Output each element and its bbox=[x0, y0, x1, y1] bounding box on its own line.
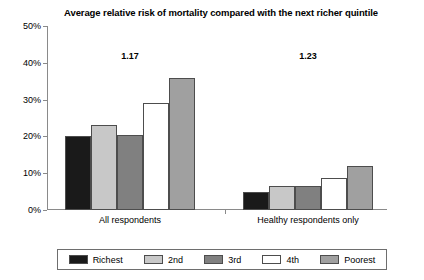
bar-poorest-1[interactable] bbox=[347, 166, 373, 210]
chart-legend: Richest2nd3rd4thPoorest bbox=[57, 249, 387, 270]
y-tick-label: 20% bbox=[23, 131, 41, 141]
legend-item-richest[interactable]: Richest bbox=[69, 255, 123, 265]
y-tick-mark bbox=[43, 173, 47, 174]
y-tick-label: 40% bbox=[23, 58, 41, 68]
legend-swatch-icon bbox=[204, 255, 223, 264]
legend-item-3rd[interactable]: 3rd bbox=[204, 255, 241, 265]
legend-label: 3rd bbox=[228, 255, 241, 265]
y-tick-mark bbox=[43, 26, 47, 27]
legend-label: 2nd bbox=[168, 255, 183, 265]
legend-swatch-icon bbox=[144, 255, 163, 264]
y-tick-mark bbox=[43, 63, 47, 64]
legend-item-4th[interactable]: 4th bbox=[262, 255, 299, 265]
legend-swatch-icon bbox=[262, 255, 281, 264]
bar-4th-1[interactable] bbox=[321, 178, 347, 210]
legend-swatch-icon bbox=[69, 255, 88, 264]
legend-label: 4th bbox=[286, 255, 299, 265]
legend-item-poorest[interactable]: Poorest bbox=[320, 255, 375, 265]
ratio-annotation-1: 1.23 bbox=[299, 51, 317, 61]
y-tick-label: 10% bbox=[23, 168, 41, 178]
bar-poorest-0[interactable] bbox=[169, 78, 195, 210]
x-axis-label-1: Healthy respondents only bbox=[243, 215, 373, 225]
ratio-annotation-0: 1.17 bbox=[121, 51, 139, 61]
y-tick-mark bbox=[43, 210, 47, 211]
chart-title: Average relative risk of mortality compa… bbox=[56, 7, 386, 19]
legend-item-2nd[interactable]: 2nd bbox=[144, 255, 183, 265]
y-tick-label: 50% bbox=[23, 21, 41, 31]
x-axis-separator-tick bbox=[225, 210, 226, 214]
bar-4th-0[interactable] bbox=[143, 103, 169, 210]
y-tick-label: 0% bbox=[28, 205, 41, 215]
bar-richest-0[interactable] bbox=[65, 136, 91, 210]
x-axis-label-0: All respondents bbox=[65, 215, 195, 225]
y-tick-mark bbox=[43, 100, 47, 101]
bar-2nd-1[interactable] bbox=[269, 186, 295, 210]
plot-area: 0%10%20%30%40%50% All respondentsHealthy… bbox=[47, 26, 387, 210]
y-tick-label: 30% bbox=[23, 95, 41, 105]
legend-label: Richest bbox=[93, 255, 123, 265]
bar-3rd-0[interactable] bbox=[117, 135, 143, 210]
legend-label: Poorest bbox=[344, 255, 375, 265]
bar-3rd-1[interactable] bbox=[295, 186, 321, 210]
y-tick-mark bbox=[43, 136, 47, 137]
chart-container: Average relative risk of mortality compa… bbox=[0, 0, 424, 280]
bar-2nd-0[interactable] bbox=[91, 125, 117, 210]
legend-swatch-icon bbox=[320, 255, 339, 264]
bar-richest-1[interactable] bbox=[243, 192, 269, 210]
y-axis-line bbox=[47, 26, 48, 210]
